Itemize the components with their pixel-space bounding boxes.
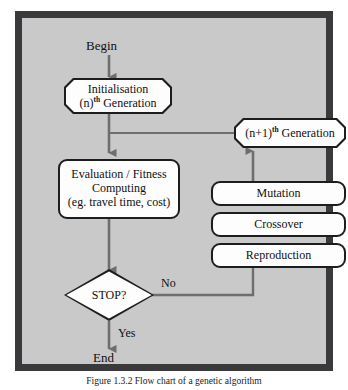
node-initialisation-n: (n) — [80, 96, 94, 110]
node-mutation[interactable]: Mutation — [211, 181, 346, 206]
figure-caption: Figure 1.3.2 Flow chart of a genetic alg… — [0, 376, 348, 390]
node-crossover[interactable]: Crossover — [211, 212, 346, 237]
node-next-generation-n1: (n+1) — [245, 126, 272, 140]
node-initialisation[interactable]: Initialisation (n)th Generation — [64, 78, 172, 114]
flowchart-canvas: Begin Initialisation (n)th Generation (n… — [44, 36, 348, 382]
terminal-begin: Begin — [86, 38, 117, 54]
node-evaluation[interactable]: Evaluation / Fitness Computing (eg. trav… — [58, 159, 180, 219]
node-initialisation-generation: Generation — [100, 96, 156, 110]
node-next-generation-generation: Generation — [279, 126, 335, 140]
node-evaluation-line1: Evaluation / Fitness — [71, 168, 166, 182]
node-next-generation[interactable]: (n+1)th Generation — [234, 118, 346, 148]
edge-label-no: No — [161, 276, 176, 291]
node-reproduction-label: Reproduction — [246, 249, 311, 263]
node-initialisation-line1: Initialisation — [88, 82, 149, 96]
node-evaluation-line3: (eg. travel time, cost) — [68, 196, 170, 210]
node-stop-label: STOP? — [92, 288, 126, 303]
node-evaluation-line2: Computing — [92, 182, 146, 196]
node-next-generation-text: (n+1)th Generation — [245, 126, 335, 140]
terminal-end: End — [93, 350, 114, 366]
node-initialisation-line2: (n)th Generation — [80, 96, 157, 110]
figure-container: Begin Initialisation (n)th Generation (n… — [0, 0, 348, 390]
node-mutation-label: Mutation — [257, 187, 301, 201]
edge-label-yes: Yes — [118, 326, 135, 341]
node-stop-decision[interactable]: STOP? — [64, 269, 154, 321]
node-reproduction[interactable]: Reproduction — [211, 243, 346, 268]
figure-frame: Begin Initialisation (n)th Generation (n… — [15, 11, 333, 371]
node-next-generation-ordinal: th — [272, 125, 279, 134]
node-crossover-label: Crossover — [254, 218, 303, 232]
